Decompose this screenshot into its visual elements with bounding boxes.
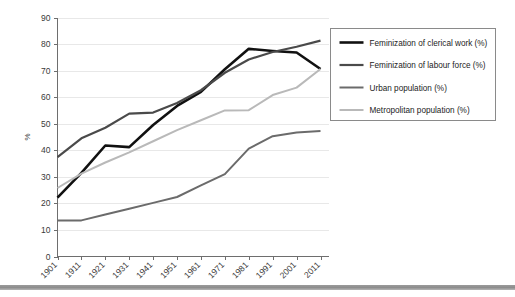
legend-label-3: Metropolitan population (%) <box>370 106 470 115</box>
y-tick-label-30: 30 <box>41 172 51 182</box>
y-tick-label-20: 20 <box>41 198 51 208</box>
x-tick-label-1951: 1951 <box>158 260 179 281</box>
footer-divider-bar <box>0 285 515 290</box>
legend-label-1: Feminization of labour force (%) <box>370 61 486 70</box>
chart-legend: Feminization of clerical work (%)Feminiz… <box>331 29 496 121</box>
y-tick-label-60: 60 <box>41 92 51 102</box>
x-tick-label-1941: 1941 <box>134 260 155 281</box>
x-axis-tick-labels: 1901191119211931194119511961197119811991… <box>38 260 322 281</box>
x-tick-label-2011: 2011 <box>302 260 322 280</box>
x-tick-label-1981: 1981 <box>230 260 251 281</box>
chart-figure: 0102030405060708090 19011911192119311941… <box>0 0 515 297</box>
y-tick-label-80: 80 <box>41 39 51 49</box>
x-tick-label-1971: 1971 <box>206 260 227 281</box>
legend-label-2: Urban population (%) <box>370 84 448 93</box>
y-tick-label-50: 50 <box>41 119 51 129</box>
x-tick-label-1921: 1921 <box>86 260 107 281</box>
series-line-2 <box>58 131 321 220</box>
y-axis-title: % <box>23 133 32 140</box>
x-tick-label-1911: 1911 <box>63 260 83 280</box>
y-tick-label-70: 70 <box>41 66 51 76</box>
line-chart: 0102030405060708090 19011911192119311941… <box>0 0 515 297</box>
series-line-3 <box>58 69 321 188</box>
y-axis-label-text: % <box>23 133 32 140</box>
y-tick-label-10: 10 <box>41 225 51 235</box>
axes <box>54 18 329 261</box>
y-tick-label-0: 0 <box>46 252 51 262</box>
y-axis-tick-labels: 0102030405060708090 <box>41 13 51 262</box>
legend-label-0: Feminization of clerical work (%) <box>370 39 488 48</box>
y-tick-label-40: 40 <box>41 145 51 155</box>
x-tick-label-1931: 1931 <box>110 260 131 281</box>
x-tick-label-2001: 2001 <box>278 260 299 281</box>
data-series <box>58 41 321 221</box>
x-tick-label-1961: 1961 <box>182 260 203 281</box>
y-tick-label-90: 90 <box>41 13 51 23</box>
x-tick-label-1991: 1991 <box>254 260 275 281</box>
x-tick-label-1901: 1901 <box>38 260 59 281</box>
